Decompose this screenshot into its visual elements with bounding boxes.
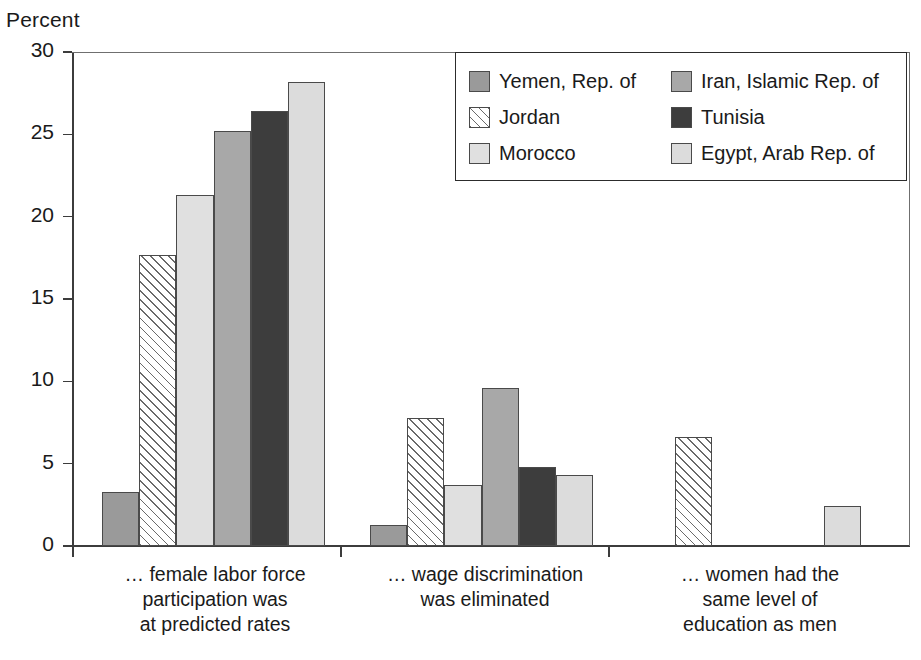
category-label-line: same level of [610,587,910,612]
legend-item-yemen-rep-of: Yemen, Rep. of [469,63,636,99]
y-axis-tick-label-5: 5 [0,450,54,474]
y-axis-tick-label-10: 10 [0,367,54,391]
legend-item-morocco: Morocco [469,135,636,171]
y-axis-tick-0 [63,545,72,547]
bar-group-0-series-1 [139,255,176,546]
y-axis-tick-25 [63,134,72,136]
category-label-line: was eliminated [335,587,635,612]
legend-label: Tunisia [701,106,765,129]
bar-group-2-series-1 [675,437,712,546]
legend-swatch-icon [671,71,692,92]
legend-swatch-icon [469,143,490,164]
bar-group-0-series-2 [176,195,213,546]
x-axis-separator-tick-2 [608,546,610,557]
y-axis-tick-30 [63,51,72,53]
legend-item-jordan: Jordan [469,99,636,135]
chart-legend: Yemen, Rep. ofJordanMorocco Iran, Islami… [455,52,907,181]
chart-canvas: Percent 051015202530 … female labor forc… [0,0,921,660]
x-axis-separator-tick-1 [340,546,342,557]
category-label-line: participation was [60,587,370,612]
legend-item-egypt-arab-rep-of: Egypt, Arab Rep. of [671,135,879,171]
y-axis-tick-5 [63,463,72,465]
y-axis-tick-label-15: 15 [0,285,54,309]
bar-group-1-series-4 [519,467,556,546]
x-axis-category-label-1: … wage discriminationwas eliminated [335,562,635,612]
bar-group-2-series-5 [824,506,861,546]
category-label-line: … female labor force [60,562,370,587]
y-axis-line [72,52,74,546]
y-axis-tick-label-0: 0 [0,532,54,556]
bar-group-1-series-2 [444,485,481,546]
legend-label: Jordan [499,106,560,129]
bar-group-1-series-3 [482,388,519,546]
bar-group-1-series-5 [556,475,593,546]
y-axis-tick-10 [63,381,72,383]
y-axis-tick-label-20: 20 [0,203,54,227]
y-axis-tick-label-25: 25 [0,120,54,144]
legend-swatch-icon [469,107,490,128]
bar-group-0-series-4 [251,111,288,546]
y-axis-tick-20 [63,216,72,218]
legend-label: Egypt, Arab Rep. of [701,142,874,165]
legend-swatch-icon [469,71,490,92]
category-label-line: … wage discrimination [335,562,635,587]
y-axis-tick-label-30: 30 [0,38,54,62]
legend-column-1: Iran, Islamic Rep. ofTunisiaEgypt, Arab … [671,63,879,171]
category-label-line: education as men [610,612,910,637]
bar-group-0-series-0 [102,492,139,546]
legend-label: Iran, Islamic Rep. of [701,70,879,93]
bar-group-0-series-3 [214,131,251,546]
legend-label: Morocco [499,142,576,165]
x-axis-category-label-0: … female labor forceparticipation wasat … [60,562,370,637]
bar-group-1-series-1 [407,418,444,546]
y-axis-tick-15 [63,298,72,300]
x-axis-separator-tick-0 [72,546,74,557]
y-axis-title: Percent [6,8,80,32]
legend-column-0: Yemen, Rep. ofJordanMorocco [469,63,636,171]
x-axis-category-label-2: … women had thesame level ofeducation as… [610,562,910,637]
category-label-line: at predicted rates [60,612,370,637]
category-label-line: … women had the [610,562,910,587]
plot-frame-right [909,52,910,546]
legend-item-tunisia: Tunisia [671,99,879,135]
legend-swatch-icon [671,143,692,164]
bar-group-0-series-5 [288,82,325,546]
legend-item-iran-islamic-rep-of: Iran, Islamic Rep. of [671,63,879,99]
legend-label: Yemen, Rep. of [499,70,636,93]
bar-group-1-series-0 [370,525,407,546]
legend-swatch-icon [671,107,692,128]
